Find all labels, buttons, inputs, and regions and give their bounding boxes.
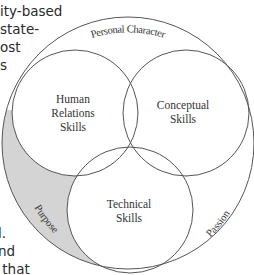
svg-text:Technical: Technical xyxy=(107,198,152,210)
svg-text:Skills: Skills xyxy=(116,212,143,224)
venn-diagram: Personal Character Purpose Passion Human… xyxy=(0,0,254,275)
svg-text:Relations: Relations xyxy=(51,107,95,119)
svg-text:Skills: Skills xyxy=(60,121,87,133)
svg-text:Skills: Skills xyxy=(170,113,197,125)
svg-text:Human: Human xyxy=(56,93,90,105)
svg-text:Conceptual: Conceptual xyxy=(157,99,209,112)
